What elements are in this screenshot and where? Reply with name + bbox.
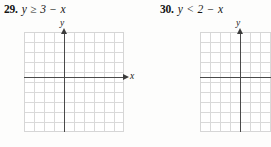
y-axis-arrow-icon	[237, 28, 243, 34]
y-axis-label: y	[236, 18, 240, 28]
problem-30-heading: 30.y < 2 − x	[160, 3, 223, 16]
coordinate-grid	[200, 32, 271, 132]
x-axis-label: x	[130, 71, 134, 81]
problem-30-expression: y < 2 − x	[178, 3, 224, 15]
problem-29: 29.y ≥ 3 − x y x	[0, 0, 135, 147]
problem-29-expression: y ≥ 3 − x	[22, 3, 66, 15]
exercise-page: 29.y ≥ 3 − x y x 30.y < 2 − x y	[0, 0, 271, 147]
problem-29-graph: y x	[24, 32, 125, 133]
x-axis-line	[24, 77, 124, 78]
problem-30: 30.y < 2 − x y	[136, 0, 271, 147]
y-axis-line	[240, 32, 241, 132]
problem-29-number: 29.	[4, 3, 18, 15]
problem-29-heading: 29.y ≥ 3 − x	[4, 3, 66, 16]
y-axis-arrow-icon	[61, 28, 67, 34]
y-axis-label: y	[60, 18, 64, 28]
problem-30-graph: y	[200, 32, 271, 133]
y-axis-line	[64, 32, 65, 132]
coordinate-grid	[24, 32, 124, 132]
problem-30-number: 30.	[160, 3, 174, 15]
x-axis-line	[200, 77, 271, 78]
x-axis-arrow-icon	[123, 74, 129, 80]
